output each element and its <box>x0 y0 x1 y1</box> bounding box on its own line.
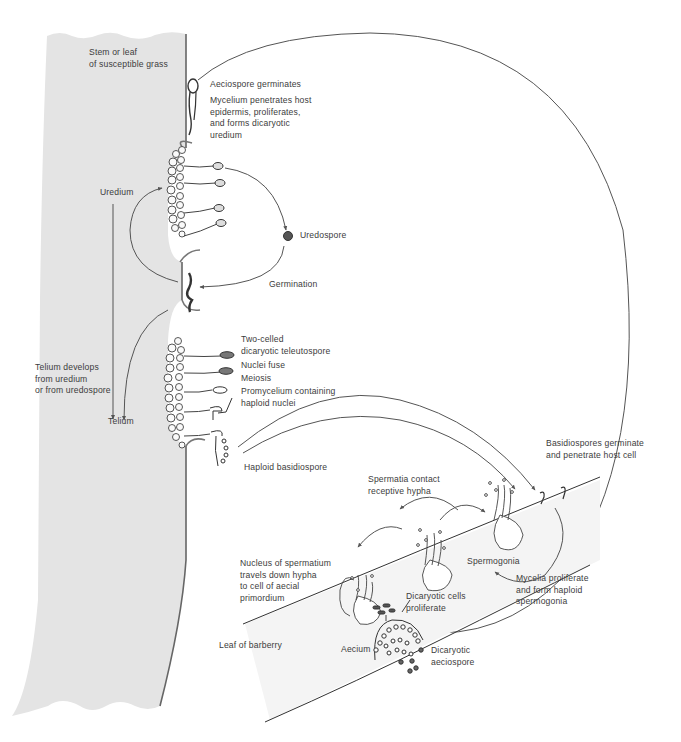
uredospore-icon <box>284 232 293 241</box>
label-two-celled: Two-celled dicaryotic teleutospore <box>241 334 330 357</box>
label-dicaryotic-cells: Dicaryotic cells proliferate <box>406 591 466 614</box>
label-promycelium: Promycelium containing haploid nuclei <box>241 386 336 409</box>
label-meiosis: Meiosis <box>241 373 271 385</box>
label-uredium: Uredium <box>100 187 134 199</box>
aeciospore-germinating-icon <box>188 79 198 135</box>
label-haploid-basidiospore: Haploid basidiospore <box>244 462 327 474</box>
label-spermogonia: Spermogonia <box>467 556 520 568</box>
label-aecium: Aecium <box>341 644 371 656</box>
label-nuclei-fuse: Nuclei fuse <box>241 360 285 372</box>
label-telium-develops: Telium develops from uredium or from ure… <box>35 362 111 397</box>
label-mycelium-penetrates: Mycelium penetrates host epidermis, prol… <box>210 95 312 141</box>
uredospore-stalks <box>184 166 217 236</box>
label-nucleus-spermatium: Nucleus of spermatium travels down hypha… <box>240 558 331 604</box>
label-uredospore: Uredospore <box>300 230 346 242</box>
germinating-uredospore-icon <box>187 273 192 312</box>
label-leaf-barberry: Leaf of barberry <box>219 640 282 652</box>
label-dicaryotic-aeciospore: Dicaryotic aeciospore <box>431 645 475 668</box>
teleutospore-stalks <box>184 356 222 436</box>
label-grass: Stem or leaf of susceptible grass <box>89 47 168 70</box>
teleutospores <box>210 352 234 466</box>
label-basidiospores-germinate: Basidiospores germinate and penetrate ho… <box>546 438 644 461</box>
label-germination: Germination <box>269 279 317 291</box>
uredium-structure <box>167 147 186 238</box>
label-telium: Telium <box>108 416 134 428</box>
uredospore-heads <box>213 163 226 227</box>
label-mycelia-proliferate: Mycelia proliferate and form haploid spe… <box>516 573 589 608</box>
label-spermatia-contact: Spermatia contact receptive hypha <box>368 474 440 497</box>
label-aeciospore-germinates: Aeciospore germinates <box>210 79 301 91</box>
